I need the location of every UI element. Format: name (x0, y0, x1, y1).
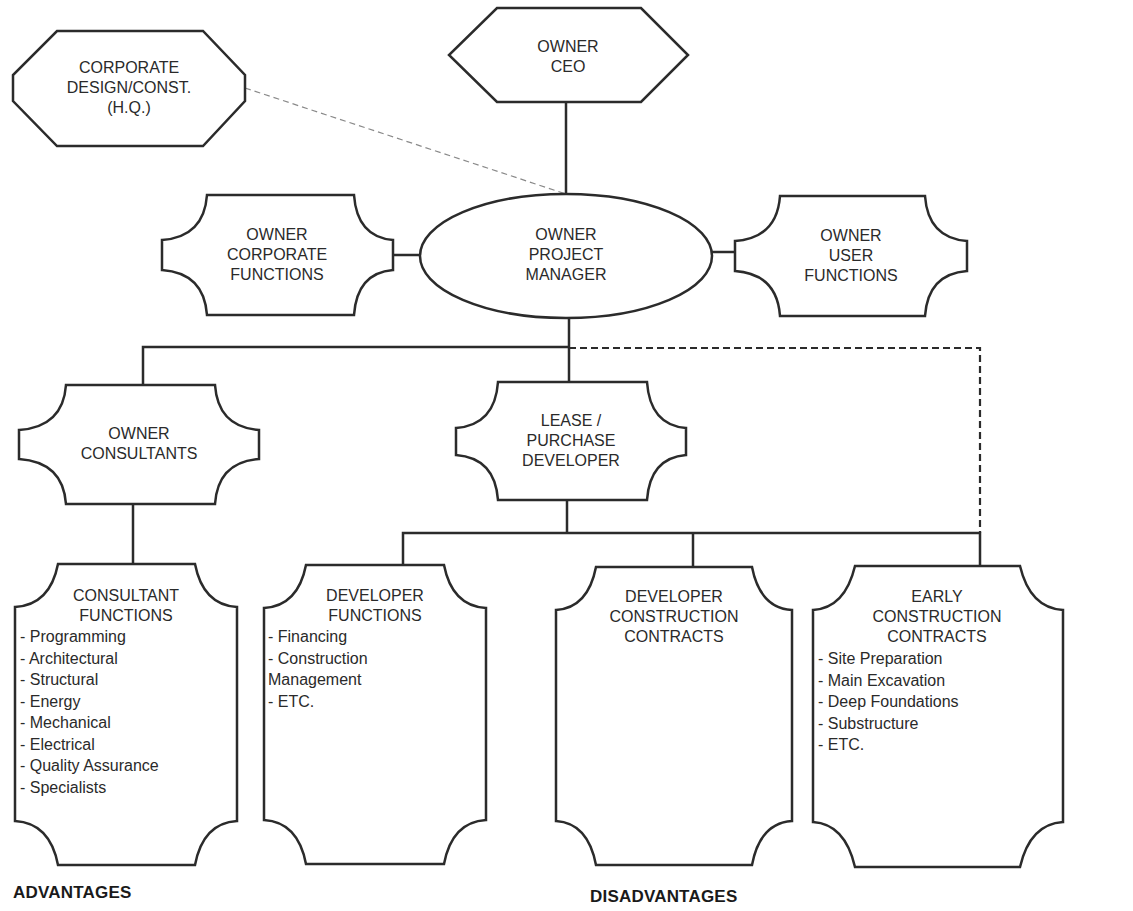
node-consultant-functions-title: CONSULTANT FUNCTIONS (26, 586, 226, 626)
node-developer-construction-contracts-title: DEVELOPER CONSTRUCTION CONTRACTS (574, 587, 774, 647)
node-owner-corporate-functions-label: OWNER CORPORATE FUNCTIONS (177, 225, 377, 285)
node-owner-ceo-label: OWNER CEO (468, 37, 668, 77)
connector-corporate-to-pm (245, 88, 566, 194)
label-line: DEVELOPER (471, 451, 671, 471)
node-owner-consultants-label: OWNER CONSULTANTS (39, 424, 239, 464)
list-item: - Electrical (20, 734, 159, 756)
label-line: OWNER (466, 225, 666, 245)
label-line: PROJECT (466, 245, 666, 265)
label-line: CORPORATE (177, 245, 377, 265)
list-item: - Substructure (818, 713, 959, 735)
list-item: - ETC. (818, 734, 959, 756)
label-line: USER (751, 246, 951, 266)
list-item: - Structural (20, 669, 159, 691)
label-line: OWNER (39, 424, 239, 444)
label-line: CONTRACTS (574, 627, 774, 647)
label-line: OWNER (751, 226, 951, 246)
label-line: DESIGN/CONST. (29, 78, 229, 98)
list-item: - Main Excavation (818, 670, 959, 692)
label-line: LEASE / (471, 411, 671, 431)
label-line: FUNCTIONS (177, 265, 377, 285)
list-item: - Mechanical (20, 712, 159, 734)
node-consultant-functions-list: - Programming - Architectural - Structur… (20, 626, 159, 798)
label-line: FUNCTIONS (751, 266, 951, 286)
node-lease-purchase-developer-label: LEASE / PURCHASE DEVELOPER (471, 411, 671, 471)
label-line: MANAGER (466, 265, 666, 285)
node-developer-functions-title: DEVELOPER FUNCTIONS (275, 586, 475, 626)
connector-pm-to-consultants (143, 347, 569, 384)
node-owner-project-manager-label: OWNER PROJECT MANAGER (466, 225, 666, 285)
list-item: Management (268, 669, 368, 691)
node-early-construction-contracts-title: EARLY CONSTRUCTION CONTRACTS (837, 587, 1037, 647)
label-line: CORPORATE (29, 58, 229, 78)
list-item: - Energy (20, 691, 159, 713)
label-line: FUNCTIONS (275, 606, 475, 626)
label-line: CONSTRUCTION (574, 607, 774, 627)
label-line: CONSULTANTS (39, 444, 239, 464)
label-line: CEO (468, 57, 668, 77)
node-early-construction-contracts-list: - Site Preparation - Main Excavation - D… (818, 648, 959, 756)
label-line: PURCHASE (471, 431, 671, 451)
label-line: DEVELOPER (275, 586, 475, 606)
node-developer-functions-list: - Financing - Construction Management - … (268, 626, 368, 712)
list-item: - Architectural (20, 648, 159, 670)
list-item: - ETC. (268, 691, 368, 713)
list-item: - Financing (268, 626, 368, 648)
label-line: CONSULTANT (26, 586, 226, 606)
label-line: EARLY (837, 587, 1037, 607)
label-line: CONSTRUCTION (837, 607, 1037, 627)
list-item: - Site Preparation (818, 648, 959, 670)
label-line: DEVELOPER (574, 587, 774, 607)
list-item: - Deep Foundations (818, 691, 959, 713)
list-item: - Programming (20, 626, 159, 648)
connector-developer-bus (403, 533, 980, 566)
label-line: (H.Q.) (29, 98, 229, 118)
node-owner-user-functions-label: OWNER USER FUNCTIONS (751, 226, 951, 286)
advantages-heading: ADVANTAGES (13, 883, 132, 903)
label-line: OWNER (468, 37, 668, 57)
label-line: OWNER (177, 225, 377, 245)
label-line: FUNCTIONS (26, 606, 226, 626)
list-item: - Specialists (20, 777, 159, 799)
node-corporate-design-label: CORPORATE DESIGN/CONST. (H.Q.) (29, 58, 229, 118)
label-line: CONTRACTS (837, 627, 1037, 647)
list-item: - Quality Assurance (20, 755, 159, 777)
disadvantages-heading: DISADVANTAGES (590, 887, 737, 907)
list-item: - Construction (268, 648, 368, 670)
